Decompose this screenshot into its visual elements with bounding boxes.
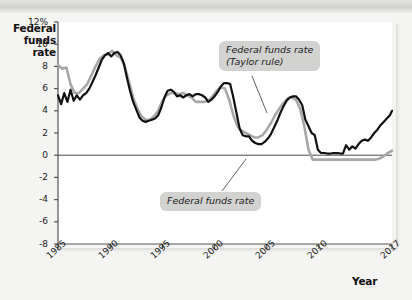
annotation-taylor-rule-line2: (Taylor rule): [226, 56, 313, 68]
y-axis-tick-label: 6: [14, 84, 48, 93]
y-axis-tick-label: -6: [14, 217, 48, 226]
x-axis-title: Year: [352, 275, 396, 287]
leader-line-taylor-rule: [252, 76, 267, 113]
y-axis-tick-label: -4: [14, 195, 48, 204]
annotation-taylor-rule: Federal funds rate (Taylor rule): [219, 41, 320, 71]
annotation-taylor-rule-line1: Federal funds rate: [226, 44, 313, 56]
y-axis-tick-label: 12%: [14, 18, 48, 27]
y-axis-tick-label: 0: [14, 151, 48, 160]
y-axis-tick-label: 10: [14, 40, 48, 49]
y-axis-tick-label: 4: [14, 106, 48, 115]
leader-line-federal-funds-rate: [222, 159, 246, 191]
y-axis-tick-label: 8: [14, 62, 48, 71]
figure-screenshot: Federal funds rate Year Federal funds ra…: [0, 0, 412, 300]
y-axis-tick-label: -8: [14, 240, 48, 249]
annotation-federal-funds-rate: Federal funds rate: [160, 192, 261, 211]
y-axis-tick-label: 2: [14, 129, 48, 138]
y-axis-tick-label: -2: [14, 173, 48, 182]
